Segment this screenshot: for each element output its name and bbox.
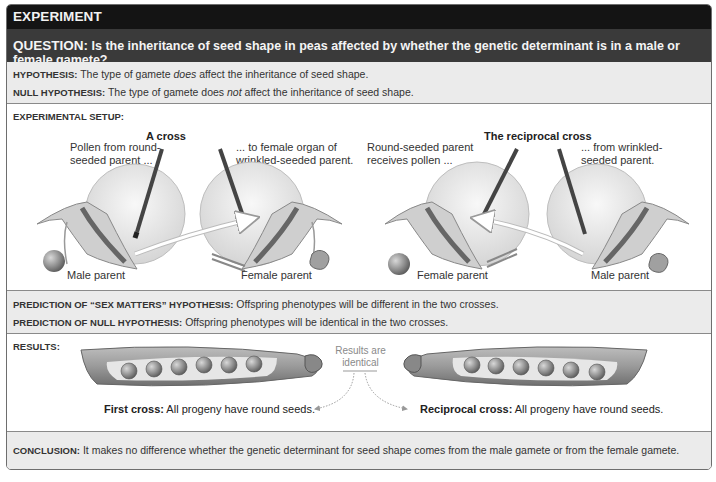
null-hypothesis-row: NULL HYPOTHESIS: The type of gamete does…: [13, 84, 711, 102]
question-bar: QUESTION: Is the inheritance of seed sha…: [7, 29, 711, 62]
wrinkled-seed-icon: [649, 253, 668, 272]
hypotheses-section: HYPOTHESIS: The type of gamete does affe…: [7, 62, 711, 104]
wrinkled-seed-icon: [310, 250, 329, 269]
prediction-text: Offspring phenotypes will be identical i…: [182, 316, 448, 328]
round-seed-icon: [43, 250, 65, 272]
dotted-arrow-icon: [315, 373, 354, 409]
first-cross-result: First cross: All progeny have round seed…: [104, 403, 315, 415]
cross-illustration: [7, 104, 712, 291]
experimental-setup-section: EXPERIMENTAL SETUP: A cross Pollen from …: [7, 104, 711, 291]
cross-female-parent-label: Female parent: [241, 269, 312, 281]
conclusion-text: It makes no difference whether the genet…: [80, 444, 679, 456]
reciprocal-female-parent-label: Female parent: [417, 269, 488, 281]
hypothesis-text-end: affect the inheritance of seed shape.: [196, 68, 368, 80]
experiment-panel: EXPERIMENT QUESTION: Is the inheritance …: [6, 4, 712, 470]
prediction-label: PREDICTION OF NULL HYPOTHESIS:: [13, 317, 182, 328]
hypothesis-text: The type of gamete: [77, 68, 173, 80]
note-line: Results are: [333, 345, 388, 357]
prediction-text: Offspring phenotypes will be different i…: [233, 298, 498, 310]
round-seed-icon: [388, 253, 410, 275]
null-hypothesis-emphasis: not: [227, 86, 242, 98]
pea-pod-icon: [404, 347, 647, 386]
cross-male-parent-label: Male parent: [67, 269, 125, 281]
prediction-sex-matters: PREDICTION OF “SEX MATTERS” HYPOTHESIS: …: [13, 296, 711, 314]
hypothesis-label: HYPOTHESIS:: [13, 69, 77, 80]
reciprocal-cross-result: Reciprocal cross: All progeny have round…: [420, 403, 663, 415]
result-label: First cross:: [104, 403, 164, 415]
results-identical-note: Results are identical: [333, 345, 388, 369]
null-hypothesis-text-end: affect the inheritance of seed shape.: [242, 86, 414, 98]
prediction-label: PREDICTION OF “SEX MATTERS” HYPOTHESIS:: [13, 299, 233, 310]
dotted-arrow-icon: [365, 373, 407, 409]
null-hypothesis-text: The type of gamete does: [105, 86, 227, 98]
conclusion-section: CONCLUSION: It makes no difference wheth…: [7, 432, 711, 470]
conclusion-label: CONCLUSION:: [13, 445, 80, 456]
hypothesis-row: HYPOTHESIS: The type of gamete does affe…: [13, 66, 711, 84]
prediction-null: PREDICTION OF NULL HYPOTHESIS: Offspring…: [13, 314, 711, 332]
hypothesis-emphasis: does: [174, 68, 197, 80]
result-text: All progeny have round seeds.: [512, 403, 663, 415]
null-hypothesis-label: NULL HYPOTHESIS:: [13, 87, 105, 98]
reciprocal-male-parent-label: Male parent: [591, 269, 649, 281]
pea-pod-icon: [81, 347, 322, 386]
result-label: Reciprocal cross:: [420, 403, 512, 415]
results-section: RESULTS:: [7, 334, 711, 432]
note-line: identical: [333, 357, 388, 369]
experiment-header: EXPERIMENT: [7, 5, 711, 29]
question-label: QUESTION:: [13, 38, 88, 53]
predictions-section: PREDICTION OF “SEX MATTERS” HYPOTHESIS: …: [7, 291, 711, 334]
result-text: All progeny have round seeds.: [164, 403, 315, 415]
